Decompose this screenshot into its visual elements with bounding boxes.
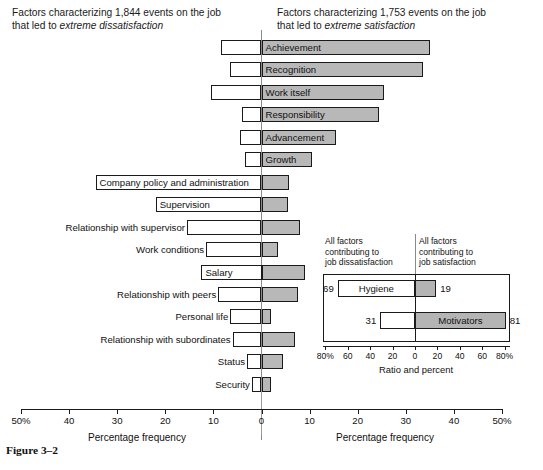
- bar-row: Responsibility: [0, 107, 543, 122]
- inset-bar-row: Motivators3181: [323, 312, 513, 329]
- inset-segment-dissatisfaction: [380, 312, 415, 329]
- x-axis-tick: [117, 409, 118, 414]
- x-axis-tick-label: 20: [160, 415, 171, 426]
- inset-caption-left-l1: All factors: [325, 236, 363, 246]
- bar-category-label: Growth: [266, 152, 297, 167]
- inset-bar-label: Motivators: [415, 312, 506, 329]
- bar-category-label: Company policy and administration: [100, 175, 249, 190]
- x-axis-tick-label: 30: [112, 415, 123, 426]
- bar-category-label: Relationship with peers: [0, 287, 216, 302]
- bar-row: Security: [0, 377, 543, 392]
- x-axis-tick-label: 50%: [11, 415, 30, 426]
- header-left-line1: Factors characterizing 1,844 events on t…: [12, 7, 221, 18]
- bar-category-label: Work conditions: [0, 242, 204, 257]
- bar-segment-dissatisfaction: [247, 354, 261, 369]
- bar-category-label: Relationship with supervisor: [0, 220, 185, 235]
- bar-category-label: Work itself: [266, 85, 311, 100]
- inset-axis-tick: [460, 346, 461, 350]
- bar-row: Supervision: [0, 197, 543, 212]
- inset-caption-right-l2: contributing to: [419, 247, 473, 257]
- header-satisfaction: Factors characterizing 1,753 events on t…: [277, 6, 522, 32]
- inset-axis-tick-label: 80%: [317, 351, 334, 361]
- inset-axis-tick: [393, 346, 394, 350]
- inset-axis-tick-label: 20: [388, 351, 398, 361]
- bar-category-label: Salary: [205, 265, 232, 280]
- x-axis-tick: [310, 409, 311, 414]
- inset-axis-tick-label: 80%: [496, 351, 513, 361]
- bar-segment-dissatisfaction: [218, 287, 261, 302]
- bar-segment-dissatisfaction: [211, 85, 262, 100]
- x-axis-title-left: Percentage frequency: [88, 432, 186, 443]
- x-axis-title-right: Percentage frequency: [336, 432, 434, 443]
- inset-value-satisfaction: 19: [440, 280, 451, 297]
- x-axis-tick: [502, 409, 503, 414]
- figure-herzberg-two-factor: Factors characterizing 1,844 events on t…: [0, 0, 543, 470]
- bar-segment-dissatisfaction: [233, 332, 262, 347]
- inset-divider-line: [415, 234, 416, 274]
- bar-category-label: Personal life: [0, 309, 228, 324]
- x-axis-tick: [69, 409, 70, 414]
- bar-row: Advancement: [0, 130, 543, 145]
- inset-axis-tick: [437, 346, 438, 350]
- inset-axis-tick-label: 40: [455, 351, 465, 361]
- bar-category-label: Security: [0, 377, 250, 392]
- header-right-line1: Factors characterizing 1,753 events on t…: [277, 7, 486, 18]
- x-axis-tick: [358, 409, 359, 414]
- bar-segment-dissatisfaction: [206, 242, 261, 257]
- inset-value-dissatisfaction: 69: [323, 280, 334, 297]
- inset-axis-tick: [415, 346, 416, 350]
- bar-category-label: Responsibility: [266, 107, 325, 122]
- inset-caption-right-l3: job satisfaction: [419, 257, 476, 267]
- bar-segment-dissatisfaction: [221, 40, 262, 55]
- bar-row: Company policy and administration: [0, 175, 543, 190]
- bar-category-label: Advancement: [266, 130, 325, 145]
- bar-segment-satisfaction: [262, 287, 298, 302]
- bar-category-label: Status: [0, 354, 245, 369]
- x-axis-tick-label: 0: [259, 415, 264, 426]
- inset-axis-tick: [370, 346, 371, 350]
- bar-segment-dissatisfaction: [240, 130, 262, 145]
- inset-bar-row: Hygiene6919: [323, 280, 513, 297]
- bar-category-label: Achievement: [266, 40, 321, 55]
- inset-axis-tick-label: 0: [413, 351, 418, 361]
- bar-segment-dissatisfaction: [245, 152, 262, 167]
- inset-ratio-chart: All factors contributing to job dissatis…: [323, 236, 511, 374]
- bar-segment-dissatisfaction: [230, 309, 261, 324]
- inset-caption-right-l1: All factors: [419, 236, 457, 246]
- bar-category-label: Supervision: [160, 197, 210, 212]
- inset-caption-dissatisfaction: All factors contributing to job dissatis…: [325, 236, 393, 268]
- x-axis-tick-label: 50%: [492, 415, 511, 426]
- x-axis-tick: [454, 409, 455, 414]
- inset-axis-tick-label: 20: [433, 351, 443, 361]
- bar-segment-satisfaction: [262, 377, 272, 392]
- bar-segment-dissatisfaction: [242, 107, 261, 122]
- bar-segment-satisfaction: [262, 197, 288, 212]
- bar-segment-satisfaction: [262, 332, 296, 347]
- inset-axis-tick-label: 60: [477, 351, 487, 361]
- x-axis-tick-label: 40: [64, 415, 75, 426]
- x-axis-tick: [262, 409, 263, 414]
- inset-axis-tick: [482, 346, 483, 350]
- bar-row: Growth: [0, 152, 543, 167]
- bar-category-label: Relationship with subordinates: [0, 332, 231, 347]
- inset-caption-left-l3: job dissatisfaction: [325, 257, 393, 267]
- x-axis-tick: [213, 409, 214, 414]
- bar-segment-dissatisfaction: [252, 377, 262, 392]
- inset-value-satisfaction: 81: [510, 312, 521, 329]
- bar-segment-satisfaction: [262, 220, 300, 235]
- x-axis-tick: [21, 409, 22, 414]
- bar-segment-satisfaction: [262, 265, 305, 280]
- inset-caption-left-l2: contributing to: [325, 247, 379, 257]
- x-axis-tick-label: 30: [400, 415, 411, 426]
- inset-axis-tick: [505, 346, 506, 350]
- x-axis-tick: [406, 409, 407, 414]
- header-dissatisfaction: Factors characterizing 1,844 events on t…: [12, 6, 237, 32]
- x-axis-tick-label: 20: [352, 415, 363, 426]
- inset-segment-satisfaction: [415, 280, 436, 297]
- inset-value-dissatisfaction: 31: [323, 312, 376, 329]
- bar-row: Achievement: [0, 40, 543, 55]
- bar-segment-satisfaction: [262, 242, 279, 257]
- inset-axis-title: Ratio and percent: [379, 364, 453, 375]
- bar-row: Relationship with supervisor: [0, 220, 543, 235]
- inset-axis-tick-label: 40: [365, 351, 375, 361]
